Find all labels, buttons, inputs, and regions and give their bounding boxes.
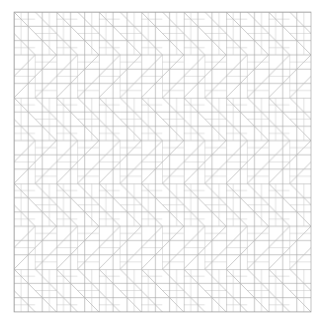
chevron-grid-figure bbox=[0, 0, 320, 327]
pattern-area bbox=[14, 12, 311, 312]
